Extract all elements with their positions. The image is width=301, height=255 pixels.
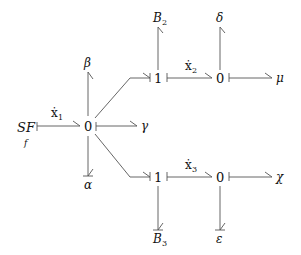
bond-alpha: α <box>83 136 93 192</box>
junction-0-top: 0 <box>216 71 224 86</box>
bond-gamma: γ <box>96 119 149 133</box>
bond-epsilon: ε <box>215 186 225 246</box>
B2-label: B <box>152 11 162 25</box>
bond-to-1-top <box>95 73 150 118</box>
source-flow-node: SF f <box>17 120 36 148</box>
bond-mu: μ <box>229 71 284 85</box>
B2-subscript: 2 <box>162 18 167 27</box>
junction-1-bot: 1 <box>154 170 162 185</box>
bond-graph-diagram: SF f ẋ 1 0 β α γ <box>0 0 301 255</box>
junction-0-main: 0 <box>84 119 92 134</box>
source-subscript: f <box>23 138 29 148</box>
bond-beta: β <box>83 56 93 116</box>
mu-label: μ <box>276 71 284 85</box>
junction-0-bot: 0 <box>216 170 224 185</box>
bond-x2: ẋ 2 <box>167 59 212 82</box>
bond-label-x1: ẋ <box>51 106 58 120</box>
junction-1-top: 1 <box>154 71 162 86</box>
bond-label-x2: ẋ <box>185 59 192 73</box>
B3-subscript: 3 <box>162 239 167 248</box>
bond-label-x3: ẋ <box>185 158 192 172</box>
epsilon-label: ε <box>216 232 222 246</box>
bond-sub-x1: 1 <box>58 113 63 122</box>
delta-label: δ <box>216 11 223 25</box>
beta-label: β <box>83 56 91 70</box>
B3-label: B <box>152 232 162 246</box>
bond-sub-x2: 2 <box>192 66 197 75</box>
chi-label: χ <box>275 170 284 184</box>
bond-to-1-bot <box>95 134 150 181</box>
bond-sub-x3: 3 <box>192 165 197 174</box>
alpha-label: α <box>84 178 92 192</box>
bond-x1: ẋ 1 <box>37 106 80 131</box>
bond-B2: B 2 <box>152 11 167 70</box>
source-label: SF <box>17 120 36 135</box>
gamma-label: γ <box>141 119 149 133</box>
bond-B3: B 3 <box>152 186 167 248</box>
bond-x3: ẋ 3 <box>167 158 212 181</box>
bond-delta: δ <box>216 11 225 70</box>
bond-chi: χ <box>229 170 284 184</box>
